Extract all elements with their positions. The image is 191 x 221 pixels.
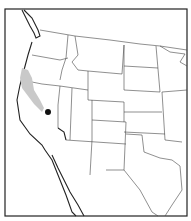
locality-dot [45, 109, 51, 115]
map-frame [5, 9, 187, 216]
range-map [0, 0, 191, 221]
